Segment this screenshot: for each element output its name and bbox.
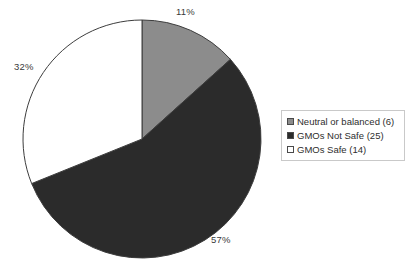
- slice-percent-label-gmos-safe: 32%: [14, 61, 34, 72]
- pie-slice-group: [23, 20, 261, 258]
- pie-chart: 11% 57% 32%: [0, 0, 272, 264]
- legend-label-neutral-or-balanced: Neutral or balanced (6): [297, 116, 394, 127]
- legend-swatch-icon-gmos-not-safe: [287, 132, 294, 139]
- legend-swatch-icon-neutral-or-balanced: [287, 118, 294, 125]
- pie-chart-screenshot: 11% 57% 32% Neutral or balanced (6) GMOs…: [0, 0, 409, 264]
- legend-label-gmos-safe: GMOs Safe (14): [297, 144, 366, 155]
- legend-item-gmos-safe[interactable]: GMOs Safe (14): [287, 143, 400, 156]
- legend-label-gmos-not-safe: GMOs Not Safe (25): [297, 130, 384, 141]
- legend-item-gmos-not-safe[interactable]: GMOs Not Safe (25): [287, 129, 400, 142]
- pie-svg: [0, 0, 272, 264]
- slice-percent-label-gmos-not-safe: 57%: [211, 234, 231, 245]
- legend-item-neutral-or-balanced[interactable]: Neutral or balanced (6): [287, 115, 400, 128]
- legend-swatch-icon-gmos-safe: [287, 146, 294, 153]
- chart-legend: Neutral or balanced (6) GMOs Not Safe (2…: [281, 110, 405, 161]
- slice-percent-label-neutral-or-balanced: 11%: [176, 6, 195, 17]
